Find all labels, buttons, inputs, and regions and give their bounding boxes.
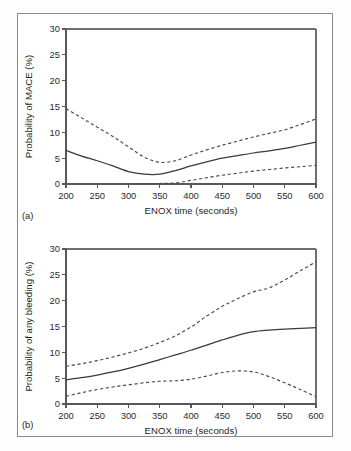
curve-point-estimate <box>66 328 316 380</box>
x-axis-tick-label: 550 <box>277 190 293 201</box>
x-axis-tick-label: 300 <box>121 190 137 201</box>
y-axis-tick-label: 0 <box>55 398 60 409</box>
curve-confidence-limit <box>66 371 316 397</box>
y-axis-tick-label: 15 <box>50 101 60 112</box>
x-axis-tick-label: 550 <box>277 410 293 421</box>
x-axis-tick-label: 200 <box>58 410 74 421</box>
x-axis-tick-label: 450 <box>214 190 230 201</box>
x-axis-tick-label: 450 <box>214 410 230 421</box>
curve-point-estimate <box>66 142 316 174</box>
x-axis-tick-label: 600 <box>308 190 324 201</box>
x-axis-tick-label: 500 <box>246 190 262 201</box>
curve-confidence-limit <box>66 109 316 163</box>
figure-root: 051015202530200250300350400450500550600E… <box>0 0 351 451</box>
x-axis-tick-label: 350 <box>152 410 168 421</box>
chart-b-canvas: 051015202530200250300350400450500550600E… <box>18 221 334 436</box>
chart-panel-a: 051015202530200250300350400450500550600E… <box>18 14 334 226</box>
x-axis-tick-label: 400 <box>183 190 199 201</box>
y-axis-tick-label: 20 <box>50 295 60 306</box>
y-axis-tick-label: 10 <box>50 347 60 358</box>
x-axis-tick-label: 600 <box>308 410 324 421</box>
figure-border-box: 051015202530200250300350400450500550600E… <box>17 13 333 437</box>
x-axis-tick-label: 300 <box>121 410 137 421</box>
x-axis-tick-label: 250 <box>89 410 105 421</box>
panel-tag: (a) <box>22 210 33 221</box>
curve-confidence-limit <box>66 165 316 185</box>
x-axis-tick-label: 400 <box>183 410 199 421</box>
y-axis-title: Probability of any bleeding (%) <box>23 261 34 391</box>
y-axis-tick-label: 10 <box>50 127 60 138</box>
x-axis-title: ENOX time (seconds) <box>145 205 238 216</box>
series-group <box>66 262 316 397</box>
panel-tag: (b) <box>22 419 33 430</box>
x-axis-tick-label: 500 <box>246 410 262 421</box>
y-axis-tick-label: 5 <box>55 373 60 384</box>
y-axis-tick-label: 30 <box>50 243 60 254</box>
x-axis-tick-label: 350 <box>152 190 168 201</box>
x-axis-tick-label: 200 <box>58 190 74 201</box>
chart-a-canvas: 051015202530200250300350400450500550600E… <box>18 14 334 226</box>
y-axis-title: Probability of MACE (%) <box>23 55 34 158</box>
y-axis-tick-label: 30 <box>50 23 60 34</box>
y-axis-tick-label: 25 <box>50 269 60 280</box>
y-axis-tick-label: 5 <box>55 153 60 164</box>
y-axis-tick-label: 15 <box>50 321 60 332</box>
y-axis-tick-label: 25 <box>50 49 60 60</box>
x-axis-title: ENOX time (seconds) <box>145 425 238 436</box>
y-axis-tick-label: 0 <box>55 178 60 189</box>
y-axis-tick-label: 20 <box>50 75 60 86</box>
x-axis-tick-label: 250 <box>89 190 105 201</box>
series-group <box>66 109 316 185</box>
chart-panel-b: 051015202530200250300350400450500550600E… <box>18 221 334 436</box>
